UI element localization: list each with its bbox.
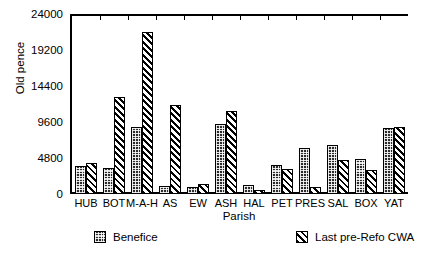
bar-group (72, 14, 100, 194)
bar-group (156, 14, 184, 194)
bar (310, 187, 321, 194)
legend-item-benefice: Benefice (94, 231, 158, 243)
y-tick-label-text: 0 (57, 186, 63, 202)
bar (327, 145, 338, 194)
y-tick-label-text: 14400 (31, 78, 63, 94)
bar-group (296, 14, 324, 194)
x-tick-label: ASH (215, 197, 238, 209)
bar (215, 124, 226, 195)
bar-group (352, 14, 380, 194)
x-tick-label: HUB (74, 197, 97, 209)
bar (366, 170, 377, 194)
bar-group (128, 14, 156, 194)
bar-group (212, 14, 240, 194)
bar (86, 163, 97, 194)
bar-group (240, 14, 268, 194)
bar (114, 97, 125, 195)
x-tick-label: AS (163, 197, 178, 209)
bar (187, 187, 198, 194)
x-tick-label: M-A-H (126, 197, 158, 209)
bar (75, 166, 86, 194)
bar (282, 169, 293, 195)
bar-group (380, 14, 408, 194)
bar (355, 159, 366, 194)
bar (383, 128, 394, 194)
bar-series-container (72, 14, 408, 194)
bar-group (100, 14, 128, 194)
y-tick-label-text: 4800 (37, 150, 63, 166)
x-tick-label: EW (189, 197, 207, 209)
y-tick-label-text: 9600 (37, 114, 63, 130)
bar-group (324, 14, 352, 194)
bar (299, 148, 310, 194)
legend-swatch-icon-last-pre-refo-cwa (296, 231, 308, 243)
y-tick-label-text: 19200 (31, 42, 63, 58)
bar (226, 111, 237, 194)
x-tick-label: BOT (103, 197, 126, 209)
x-tick-label: PET (271, 197, 292, 209)
x-tick-label: YAT (384, 197, 404, 209)
bar-group (184, 14, 212, 194)
bar (198, 184, 209, 195)
bar (254, 190, 265, 195)
x-axis-title: Parish (70, 210, 408, 222)
legend-item-last-pre-refo-cwa: Last pre-Refo CWA (296, 231, 414, 243)
y-tick-label-text: 24000 (31, 6, 63, 22)
y-axis-title: Old pence (14, 18, 30, 118)
legend: Benefice Last pre-Refo CWA (70, 231, 422, 249)
legend-label-benefice: Benefice (113, 231, 158, 243)
bar (170, 105, 181, 194)
x-tick-label: PRES (295, 197, 325, 209)
x-tick-label: SAL (328, 197, 349, 209)
legend-label-last-pre-refo-cwa: Last pre-Refo CWA (315, 231, 414, 243)
bar (103, 168, 114, 194)
bar (394, 127, 405, 194)
bar (338, 160, 349, 194)
bar (142, 32, 153, 194)
x-tick-label: HAL (243, 197, 264, 209)
bar-chart: Old pence 048009600144001920024000 HUBBO… (0, 0, 432, 257)
bar-group (268, 14, 296, 194)
bar (159, 186, 170, 194)
bar (271, 165, 282, 194)
bar (243, 185, 254, 194)
x-tick-label: BOX (354, 197, 377, 209)
legend-swatch-icon-benefice (94, 231, 106, 243)
bar (131, 127, 142, 194)
